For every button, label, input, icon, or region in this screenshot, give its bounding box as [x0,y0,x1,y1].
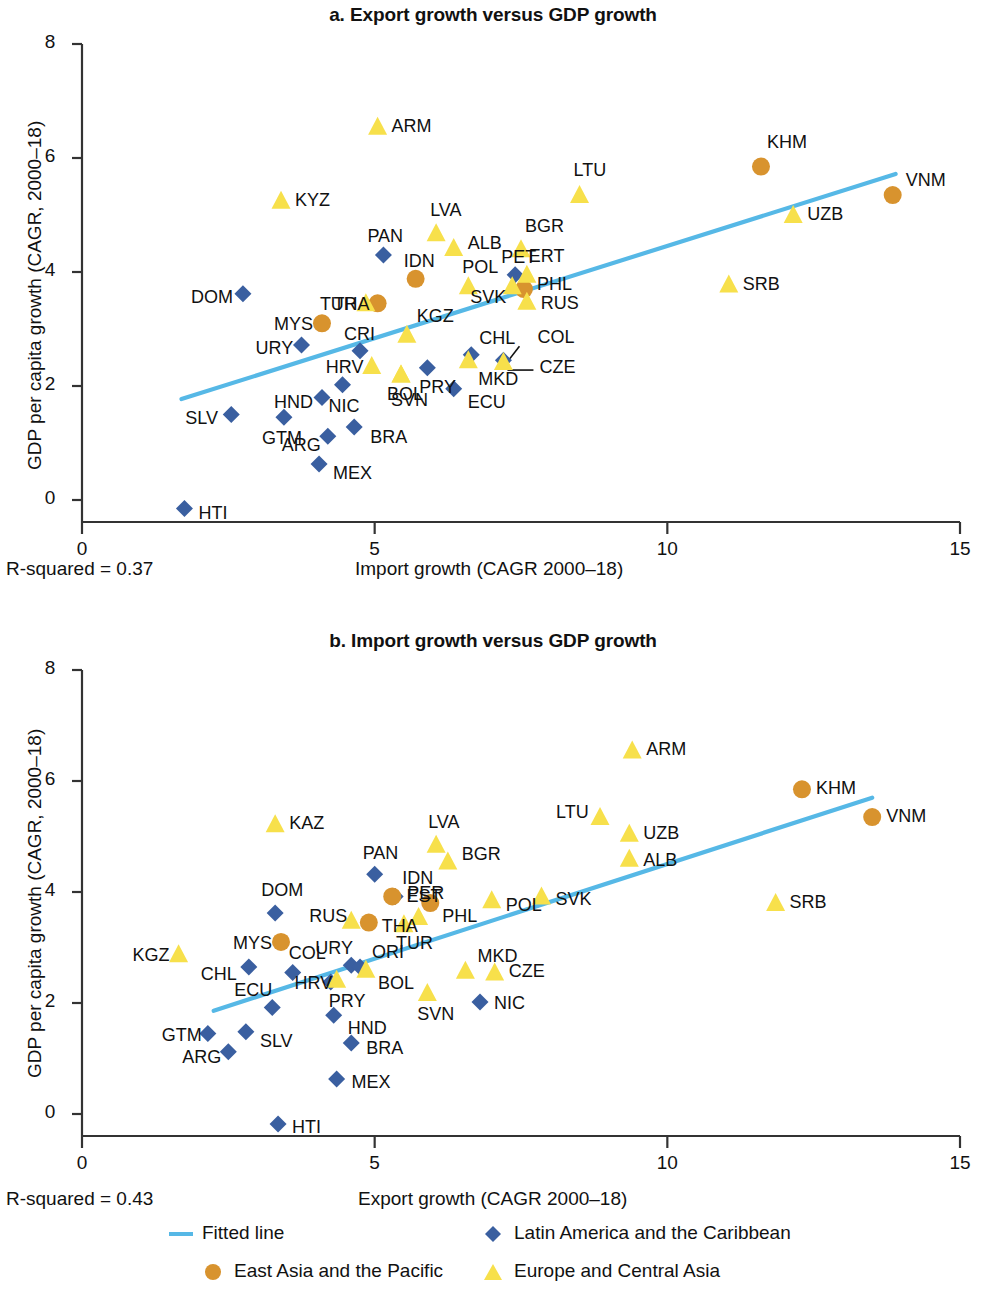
point-label-hnd: HND [274,392,313,413]
point-label-kyz: KYZ [295,190,330,211]
point-label-nic: NIC [328,396,359,417]
data-point-nic [472,993,489,1010]
diamond-glyph [485,1226,501,1242]
y-tick-label: 2 [36,990,64,1012]
point-label-hrv: HRV [326,357,364,378]
point-label-bra: BRA [366,1038,403,1059]
data-point-srb [766,893,785,911]
point-label-col: COL [537,327,574,348]
point-label-arg: ARG [182,1047,221,1068]
panel-b-x-axis-label: Export growth (CAGR 2000–18) [358,1188,627,1210]
point-label-alb: ALB [643,850,677,871]
point-label-khm: KHM [816,778,856,799]
point-label-chl: CHL [201,964,237,985]
chart-panel-b: b. Import growth versus GDP growth GDP p… [0,608,986,1208]
data-point-bra [346,419,363,436]
data-point-pan [366,866,383,883]
point-label-nic: NIC [494,993,525,1014]
panel-a-r-squared: R-squared = 0.37 [6,558,153,580]
point-label-mkd: MKD [478,369,518,390]
data-point-uzb [620,824,639,842]
data-point-mex [328,1071,345,1088]
point-label-gtm: GTM [162,1025,202,1046]
circle-marker-icon [200,1262,226,1280]
data-point-srb [719,275,738,293]
point-label-svk: SVK [555,889,591,910]
data-point-mkd [456,961,475,979]
point-label-cri: CRI [344,324,375,345]
data-point-pol [482,890,501,908]
point-label-lva: LVA [430,200,461,221]
data-point-svn [418,983,437,1001]
point-label-lva: LVA [428,812,459,833]
y-tick-label: 8 [36,657,64,679]
point-label-ury: URY [256,338,294,359]
point-label-vnm: VNM [906,170,946,191]
point-label-kaz: KAZ [289,813,324,834]
data-point-alb [444,238,463,256]
point-label-hrv: HRV [295,973,333,994]
point-label-vnm: VNM [886,806,926,827]
data-point-idn [407,270,425,288]
panel-a-x-axis-label: Import growth (CAGR 2000–18) [355,558,623,580]
y-tick-label: 0 [36,487,64,509]
point-label-cze: CZE [509,961,545,982]
data-point-hti [176,500,193,517]
point-label-slv: SLV [260,1031,293,1052]
point-label-arm: ARM [646,739,686,760]
y-tick-label: 8 [36,31,64,53]
legend-label-latin-america: Latin America and the Caribbean [514,1222,791,1244]
point-label-phl: PHL [442,906,477,927]
data-point-kaz [266,814,285,832]
point-label-alb: ALB [468,233,502,254]
point-label-mys: MYS [274,314,313,335]
data-point-idn [383,887,401,905]
data-point-pry [419,359,436,376]
data-point-chl [240,958,257,975]
point-label-mex: MEX [333,463,372,484]
data-point-arg [220,1043,237,1060]
point-label-kgz: KGZ [133,945,170,966]
data-point-kyz [272,191,291,209]
point-label-idn: IDN [404,251,435,272]
point-label-ury: URY [315,938,353,959]
point-label-svn: SVN [391,390,428,411]
data-point-dom [234,285,251,302]
point-label-arg: ARG [282,435,321,456]
point-label-dom: DOM [191,287,233,308]
point-label-hti: HTI [198,503,227,524]
y-tick-label: 0 [36,1101,64,1123]
diamond-marker-icon [480,1224,506,1242]
point-label-srb: SRB [790,892,827,913]
point-label-ltu: LTU [556,802,589,823]
point-label-pol: POL [506,895,542,916]
point-label-rus: RUS [541,293,579,314]
data-point-hti [270,1115,287,1132]
point-label-uzb: UZB [807,204,843,225]
point-label-khm: KHM [767,132,807,153]
data-point-mys [313,314,331,332]
data-point-tha [360,914,378,932]
point-label-bgr: BGR [462,844,501,865]
panel-b-r-squared: R-squared = 0.43 [6,1188,153,1210]
x-tick-label: 10 [647,1152,687,1174]
y-tick-label: 2 [36,373,64,395]
point-label-pan: PAN [367,226,403,247]
data-point-vnm [884,186,902,204]
point-label-mex: MEX [352,1072,391,1093]
x-tick-label: 5 [355,1152,395,1174]
data-point-ecu [264,999,281,1016]
point-label-bra: BRA [370,427,407,448]
legend-label-fitted-line: Fitted line [202,1222,284,1244]
data-point-lva [427,223,446,241]
x-tick-label: 15 [940,538,980,560]
point-label-rus: RUS [309,906,347,927]
y-tick-label: 4 [36,879,64,901]
y-tick-label: 6 [36,768,64,790]
legend-label-east-asia: East Asia and the Pacific [234,1260,443,1282]
data-point-svn [392,365,411,383]
point-label-pan: PAN [363,843,399,864]
chart-panel-a: a. Export growth versus GDP growth GDP p… [0,0,986,600]
point-label-chl: CHL [479,328,515,349]
point-label-arm: ARM [392,116,432,137]
